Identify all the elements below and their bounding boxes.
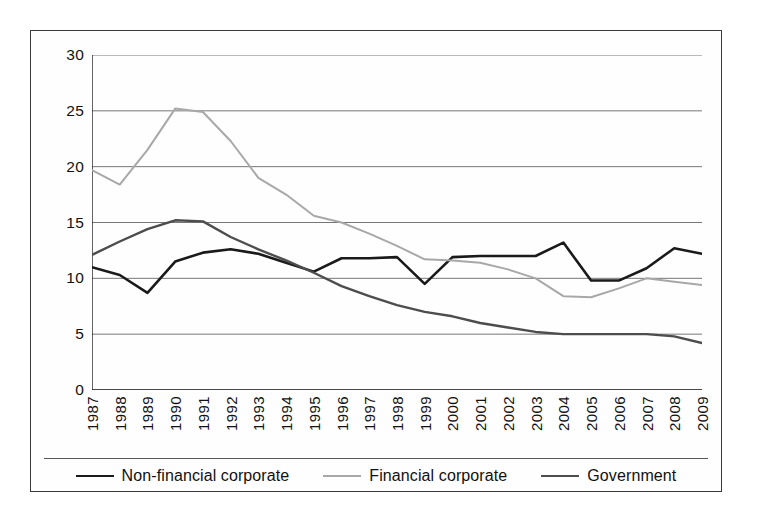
legend-swatch-line-icon [541,475,579,477]
x-axis: 1987198819891990199119921993199419951996… [92,396,702,458]
x-axis-tick-label: 2009 [694,396,711,431]
gridlines [92,55,702,390]
x-axis-tick-label: 1989 [139,396,156,431]
legend-divider [44,458,708,459]
y-axis-tick-label: 15 [66,215,84,231]
series-line-0 [92,243,702,293]
x-axis-tick-label: 1999 [417,396,434,431]
x-axis-tick-label: 2000 [444,396,461,431]
x-axis-tick-label: 2005 [583,396,600,431]
x-axis-tick-label: 2001 [472,396,489,431]
legend-swatch-line-icon [76,475,114,477]
y-axis-tick-label: 10 [66,271,84,287]
legend-label: Non-financial corporate [122,467,290,485]
x-axis-tick-label: 2008 [666,396,683,431]
x-axis-tick-label: 2007 [639,396,656,431]
x-axis-tick-label: 2002 [500,396,517,431]
x-axis-tick-label: 1988 [112,396,129,431]
x-axis-tick-label: 1990 [167,396,184,431]
y-axis-tick-label: 5 [75,326,84,342]
plot-area [92,55,702,390]
legend-label: Financial corporate [369,467,507,485]
x-axis-tick-label: 2003 [528,396,545,431]
x-axis-tick-label: 1991 [195,396,212,431]
x-axis-tick-label: 1994 [278,396,295,431]
legend-item[interactable]: Government [541,467,676,485]
series-line-1 [92,109,702,298]
line-chart-svg [92,55,702,390]
x-axis-tick-label: 1987 [84,396,101,431]
legend-label: Government [587,467,676,485]
y-axis-tick-label: 25 [66,103,84,119]
y-axis-tick-label: 0 [75,382,84,398]
x-axis-tick-label: 1995 [306,396,323,431]
x-axis-tick-label: 1998 [389,396,406,431]
y-axis-tick-label: 20 [66,159,84,175]
y-axis: 051015202530 [46,55,84,390]
x-axis-tick-label: 1992 [223,396,240,431]
legend-item[interactable]: Non-financial corporate [76,467,290,485]
x-axis-tick-label: 1993 [250,396,267,431]
y-axis-tick-label: 30 [66,47,84,63]
legend-item[interactable]: Financial corporate [323,467,507,485]
legend-swatch-line-icon [323,475,361,477]
x-axis-tick-label: 2004 [555,396,572,431]
chart-legend: Non-financial corporateFinancial corpora… [44,462,708,490]
x-axis-tick-label: 1996 [334,396,351,431]
x-axis-tick-label: 2006 [611,396,628,431]
chart-figure: 051015202530 198719881989199019911992199… [0,0,757,521]
x-axis-tick-label: 1997 [361,396,378,431]
